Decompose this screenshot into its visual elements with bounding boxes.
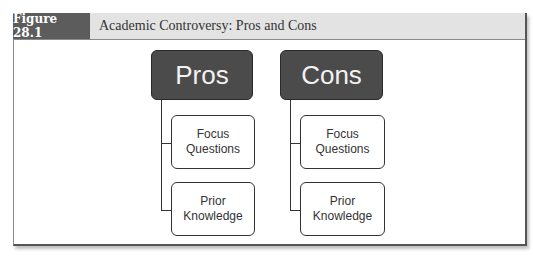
pros-prior-knowledge-node: Prior Knowledge <box>171 182 255 236</box>
cons-focus-questions-node: Focus Questions <box>300 115 385 169</box>
cons-connector-branch-2 <box>290 210 300 211</box>
pros-connector-branch-1 <box>161 143 171 144</box>
cons-prior-knowledge-node: Prior Knowledge <box>300 182 385 236</box>
figure-label: Figure 28.1 <box>13 13 90 39</box>
figure-title: Academic Controversy: Pros and Cons <box>99 18 317 34</box>
pros-node: Pros <box>151 50 253 100</box>
figure-header: Figure 28.1 Academic Controversy: Pros a… <box>13 13 525 40</box>
cons-connector-vertical <box>290 100 291 211</box>
pros-focus-questions-node: Focus Questions <box>171 115 255 169</box>
cons-node: Cons <box>280 50 383 100</box>
pros-connector-vertical <box>161 100 162 211</box>
pros-connector-branch-2 <box>161 210 171 211</box>
cons-connector-branch-1 <box>290 143 300 144</box>
figure-frame <box>13 13 527 246</box>
